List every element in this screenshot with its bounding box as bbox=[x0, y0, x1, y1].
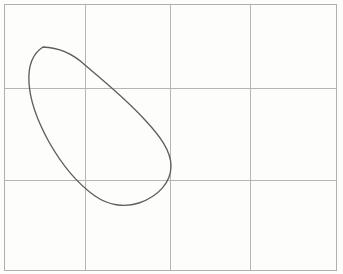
plot-background bbox=[0, 0, 343, 274]
figure-root bbox=[0, 0, 343, 274]
chart-canvas bbox=[0, 0, 343, 274]
